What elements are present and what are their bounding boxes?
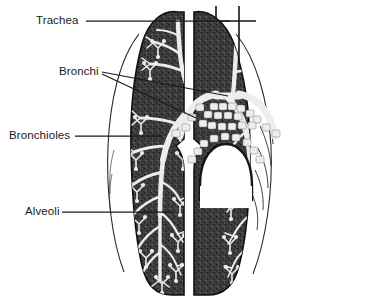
label-alveoli: Alveoli bbox=[25, 206, 60, 218]
lung-anatomy-figure: Trachea Bronchi Bronchioles Alveoli bbox=[0, 0, 369, 305]
label-bronchioles: Bronchioles bbox=[9, 130, 70, 142]
label-trachea: Trachea bbox=[36, 15, 78, 27]
lung-diagram-svg bbox=[0, 0, 369, 305]
label-bronchi: Bronchi bbox=[59, 66, 99, 78]
